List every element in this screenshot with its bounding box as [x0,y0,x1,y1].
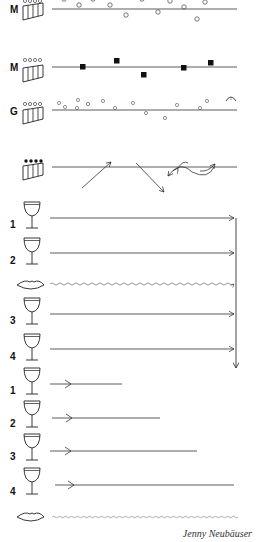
glass-section-1 [17,202,236,368]
staff-label: M [10,63,18,73]
staff-m-circles [23,0,237,21]
wine-glass-icon [24,368,40,394]
wavy-line [52,516,238,518]
wine-glass-icon [24,401,40,427]
glass-number: 2 [10,419,16,429]
staff-label: G [10,107,18,117]
lips-icon [17,513,44,521]
graphic-score [0,0,256,542]
wine-glass-icon [24,298,40,324]
panpipe-icon [23,3,43,20]
wine-glass-icon [24,238,40,264]
glass-number: 2 [10,256,16,266]
glass-number: 4 [10,487,16,497]
composer-signature: Jenny Neubäuser [183,528,252,539]
glass-section-2 [17,368,238,521]
glass-number: 3 [10,316,16,326]
panpipe-icon [23,163,43,180]
wine-glass-icon [24,334,40,360]
staff-gestures [23,159,237,192]
wavy-line [50,283,234,285]
wine-glass-icon [24,434,40,460]
staff-g-circles [23,97,237,124]
panpipe-icon [23,107,43,124]
glass-number: 1 [10,220,16,230]
staff-label: M [10,5,18,15]
panpipe-icon [23,65,43,82]
staff-m-squares [23,58,237,82]
wine-glass-icon [24,468,40,494]
fermata-icon [226,97,236,101]
glass-number: 1 [10,386,16,396]
lips-icon [17,281,44,289]
wine-glass-icon [24,202,40,228]
glass-number: 4 [10,352,16,362]
glass-number: 3 [10,452,16,462]
